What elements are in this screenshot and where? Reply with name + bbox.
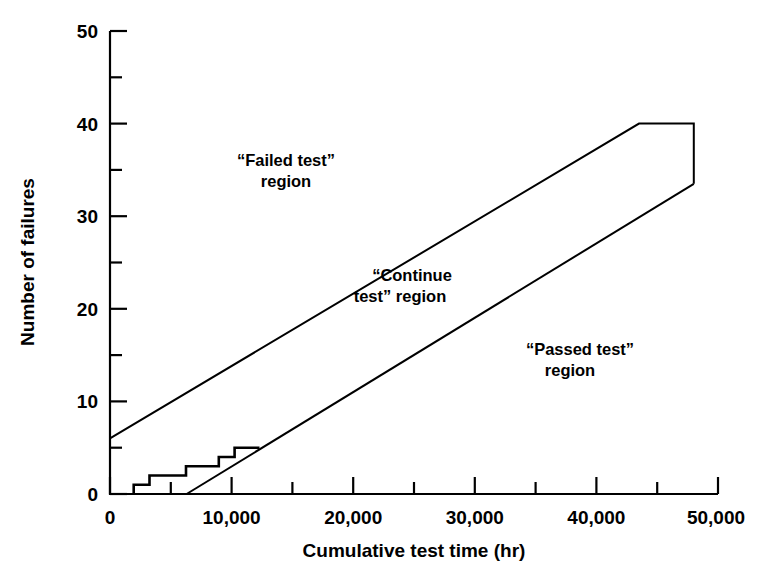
chart-canvas: 0 10 20 30 40 50 0 10,000 20,000 30,000 … <box>0 0 771 571</box>
passed-test-boundary-line <box>187 184 694 494</box>
x-tick-label-20000: 20,000 <box>324 507 382 528</box>
y-tick-labels: 0 10 20 30 40 50 <box>77 21 98 505</box>
x-tick-label-0: 0 <box>105 507 116 528</box>
annotation-passed-test: “Passed test” region <box>526 340 634 379</box>
y-axis-minor-ticks <box>110 77 122 447</box>
failed-test-label-line1: “Failed test” <box>237 151 335 169</box>
y-tick-label-50: 50 <box>77 21 98 42</box>
continue-test-label-line2: test” region <box>354 287 447 305</box>
y-tick-label-20: 20 <box>77 299 98 320</box>
x-tick-label-10000: 10,000 <box>203 507 261 528</box>
continue-test-label-line1: “Continue <box>372 266 452 284</box>
axis-lines <box>110 31 718 494</box>
x-tick-label-50000: 50,000 <box>687 507 745 528</box>
y-tick-label-0: 0 <box>87 484 98 505</box>
passed-test-label-line2: region <box>545 361 595 379</box>
axes-group <box>110 31 718 494</box>
annotation-failed-test: “Failed test” region <box>237 151 335 190</box>
passed-test-label-line1: “Passed test” <box>526 340 634 358</box>
y-tick-label-30: 30 <box>77 206 98 227</box>
y-axis-title: Number of failures <box>17 178 38 346</box>
reliability-demonstration-test-chart: 0 10 20 30 40 50 0 10,000 20,000 30,000 … <box>0 0 771 571</box>
failed-test-label-line2: region <box>261 172 311 190</box>
y-tick-label-10: 10 <box>77 391 98 412</box>
x-tick-labels: 0 10,000 20,000 30,000 40,000 50,000 <box>105 507 745 528</box>
x-axis-minor-ticks <box>171 482 657 494</box>
y-tick-label-40: 40 <box>77 114 98 135</box>
x-tick-label-30000: 30,000 <box>446 507 504 528</box>
x-tick-label-40000: 40,000 <box>567 507 625 528</box>
x-axis-title: Cumulative test time (hr) <box>303 540 526 561</box>
